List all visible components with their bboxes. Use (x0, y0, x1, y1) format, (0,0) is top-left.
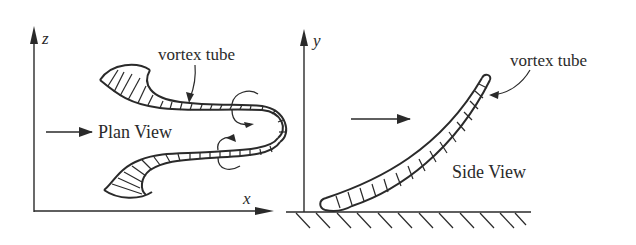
plan-view-title: Plan View (98, 122, 172, 142)
plan-rotation-arrow-upper-icon (244, 122, 254, 128)
y-axis: y (300, 29, 321, 212)
z-axis-label: z (41, 29, 49, 48)
plan-vortex-tube-label: vortex tube (158, 45, 235, 64)
x-axis-label: x (242, 189, 251, 208)
plan-tube-pointer (190, 65, 195, 98)
vortex-tube-diagram: z x Plan View vortex tube (0, 0, 636, 245)
y-axis-label: y (311, 31, 321, 50)
side-tube-pointer-arrowhead-icon (489, 91, 499, 99)
plan-view-panel: z x Plan View vortex tube (30, 26, 286, 215)
side-view-title: Side View (452, 162, 526, 182)
plan-tube-pointer-arrowhead-icon (186, 92, 194, 103)
side-vortex-tube (320, 75, 490, 211)
y-axis-arrowhead-icon (300, 29, 308, 46)
plan-rotation-arrow-lower-icon (226, 134, 236, 142)
ground-wall (286, 212, 531, 228)
x-axis-arrowhead-icon (255, 207, 274, 215)
side-vortex-tube-label: vortex tube (510, 51, 587, 70)
side-view-panel: y (286, 29, 587, 228)
z-axis: z (30, 26, 49, 212)
z-axis-arrowhead-icon (30, 26, 38, 44)
side-tube-pointer (492, 70, 530, 95)
x-axis: x (34, 189, 274, 215)
